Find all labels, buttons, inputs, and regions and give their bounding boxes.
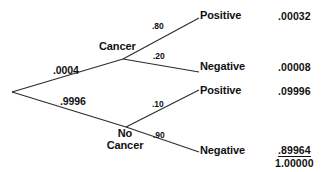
branch-probability-cancer-negative: .20 xyxy=(153,52,165,61)
branch-probability-no-cancer: .9996 xyxy=(60,96,86,107)
node-label-no-cancer: No Cancer xyxy=(97,128,153,152)
outcome-label-no-cancer-negative: Negative xyxy=(200,145,245,156)
node-label-no-cancer-line2: Cancer xyxy=(97,140,153,152)
joint-probability-cancer-negative: .00008 xyxy=(278,62,311,73)
probability-tree-diagram: Cancer No Cancer .0004 .9996 .80 .20 .10… xyxy=(0,0,332,172)
branch-probability-no-cancer-positive: .10 xyxy=(152,100,164,109)
joint-probability-no-cancer-positive: .09996 xyxy=(278,86,311,97)
joint-probability-total: 1.00000 xyxy=(275,158,314,169)
outcome-label-cancer-positive: Positive xyxy=(200,10,241,21)
outcome-label-cancer-negative: Negative xyxy=(200,61,245,72)
node-label-cancer: Cancer xyxy=(99,41,136,52)
branch-probability-cancer: .0004 xyxy=(53,65,79,76)
joint-probability-cancer-positive: .00032 xyxy=(278,11,311,22)
branch-probability-no-cancer-negative: .90 xyxy=(153,131,165,140)
branch-probability-cancer-positive: .80 xyxy=(152,22,164,31)
outcome-label-no-cancer-positive: Positive xyxy=(200,85,241,96)
joint-probability-no-cancer-negative: .89964 xyxy=(278,145,311,157)
